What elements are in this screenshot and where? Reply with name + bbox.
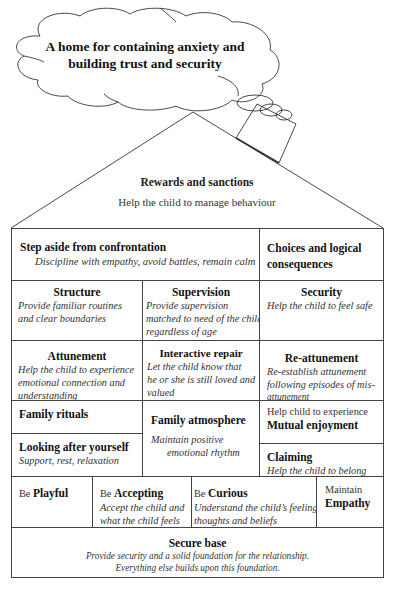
supervision-desc-line-1: Provide supervision [146, 299, 259, 312]
empathy-title: Empathy [325, 496, 383, 510]
accepting-title: Accepting [114, 487, 163, 499]
cell-looking-after: Looking after yourself Support, rest, re… [11, 433, 143, 477]
family-atmosphere-title: Family atmosphere [151, 413, 259, 427]
interactive-repair-desc-line-3: valued [147, 386, 259, 399]
structure-title: Structure [18, 285, 142, 299]
security-desc: Help the child to feel safe [267, 299, 383, 312]
cell-step-aside: Step aside from confrontation Discipline… [11, 228, 260, 281]
cell-reattunement: Re-attunement Re-establish attunement fo… [259, 340, 384, 401]
cell-mutual-enjoyment: Help child to experience Mutual enjoymen… [259, 400, 384, 444]
cell-security: Security Help the child to feel safe [259, 280, 384, 341]
roof-title: Rewards and sanctions [60, 176, 334, 188]
attunement-desc-line-1: Help the child to experience [18, 363, 142, 376]
supervision-desc-line-2: matched to need of the child [146, 312, 259, 325]
mutual-enjoyment-prefix: Help child to experience [267, 405, 383, 418]
cell-choices: Choices and logical consequences [259, 228, 384, 281]
secure-base-desc-line-2: Everything else builds upon this foundat… [12, 562, 383, 574]
family-atmosphere-desc-line-1: Maintain positive [151, 433, 259, 446]
step-aside-desc: Discipline with empathy, avoid battles, … [20, 255, 259, 268]
cell-supervision: Supervision Provide supervision matched … [142, 280, 260, 341]
attunement-title: Attunement [18, 349, 142, 363]
playful-title: Playful [33, 487, 68, 499]
curious-desc-line-2: thoughts and beliefs [194, 514, 316, 527]
cell-curious: Be Curious Understand the child’s feelin… [191, 476, 317, 528]
cell-interactive-repair: Interactive repair Let the child know th… [142, 340, 260, 401]
reattunement-title: Re-attunement [267, 351, 383, 365]
accepting-desc-line-1: Accept the child and [100, 501, 191, 514]
cloud-title-line-2: building trust and security [40, 55, 250, 72]
choices-title-line-1: Choices and logical [267, 241, 383, 255]
reattunement-desc-line-1: Re-establish attunement [267, 365, 383, 378]
cloud-title-line-1: A home for containing anxiety and [40, 38, 250, 55]
curious-title: Curious [208, 487, 248, 499]
cell-family-atmosphere: Family atmosphere Maintain positive emot… [142, 400, 260, 477]
structure-desc-line-2: and clear boundaries [18, 312, 142, 325]
secure-base-desc-line-1: Provide security and a solid foundation … [12, 550, 383, 562]
secure-base-title: Secure base [12, 536, 383, 550]
structure-desc-line-1: Provide familiar routines [18, 299, 142, 312]
empathy-prefix: Maintain [325, 483, 383, 496]
interactive-repair-title: Interactive repair [147, 346, 259, 360]
family-atmosphere-desc-line-2: emotional rhythm [151, 446, 259, 459]
looking-after-desc: Support, rest, relaxation [19, 454, 142, 467]
chimney-icon [236, 104, 296, 163]
cell-attunement: Attunement Help the child to experience … [11, 340, 143, 401]
attunement-desc-line-2: emotional connection and [18, 376, 142, 389]
interactive-repair-desc-line-2: he or she is still loved and [147, 373, 259, 386]
curious-desc-line-1: Understand the child’s feeling, [194, 501, 316, 514]
interactive-repair-desc-line-1: Let the child know that [147, 360, 259, 373]
supervision-title: Supervision [146, 285, 259, 299]
cell-playful: Be Playful [11, 476, 93, 528]
curious-prefix: Be [194, 488, 208, 499]
cell-secure-base: Secure base Provide security and a solid… [11, 527, 384, 578]
choices-title-line-2: consequences [267, 257, 383, 271]
claiming-title: Claiming [267, 450, 383, 464]
playful-prefix: Be [19, 488, 33, 499]
cloud-title: A home for containing anxiety and buildi… [40, 38, 250, 72]
reattunement-desc-line-2: following episodes of mis- [267, 378, 383, 391]
cell-family-rituals: Family rituals [11, 400, 143, 434]
cell-empathy: Maintain Empathy [316, 476, 384, 528]
looking-after-title: Looking after yourself [19, 440, 142, 454]
cell-structure: Structure Provide familiar routines and … [11, 280, 143, 341]
cell-claiming: Claiming Help the child to belong [259, 443, 384, 477]
accepting-desc-line-2: what the child feels [100, 514, 191, 527]
security-title: Security [267, 285, 383, 299]
mutual-enjoyment-title: Mutual enjoyment [267, 418, 383, 432]
roof-subtitle: Help the child to manage behaviour [60, 196, 334, 208]
cell-accepting: Be Accepting Accept the child and what t… [92, 476, 192, 528]
supervision-desc-line-3: regardless of age [146, 325, 259, 338]
accepting-prefix: Be [100, 488, 114, 499]
family-rituals-title: Family rituals [19, 407, 142, 421]
step-aside-title: Step aside from confrontation [20, 240, 259, 254]
roof-icon [11, 112, 383, 228]
